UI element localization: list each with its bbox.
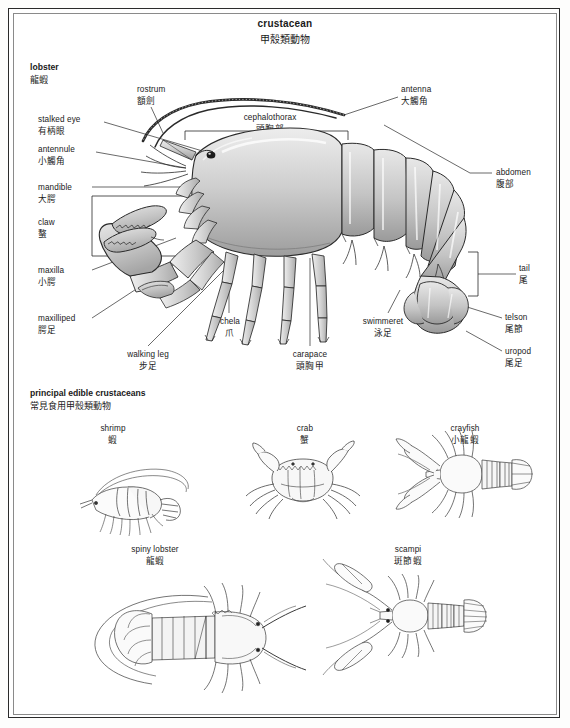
label-swimmeret: swimmeret 泳足 — [352, 317, 414, 339]
section-edible-zh: 常見食用甲殼類動物 — [30, 399, 146, 412]
label-stalked-eye: stalked eye 有柄眼 — [38, 115, 81, 137]
section-heading-lobster: lobster 龍蝦 — [30, 62, 59, 86]
section-heading-edible: principal edible crustaceans 常見食用甲殼類動物 — [30, 388, 146, 412]
caption-scampi: scampi 斑節蝦 — [368, 545, 448, 567]
label-maxilliped: maxilliped 腭足 — [38, 314, 75, 336]
caption-shrimp: shrimp 蝦 — [73, 424, 153, 446]
label-tail: tail 尾 — [519, 264, 530, 286]
section-edible-en: principal edible crustaceans — [30, 388, 146, 398]
page-title-en: crustacean — [0, 18, 570, 29]
label-antennule: antennule 小觸角 — [38, 145, 75, 167]
section-lobster-en: lobster — [30, 62, 59, 72]
label-walking-leg: walking leg 步足 — [110, 350, 186, 372]
page-title-zh: 甲殼類動物 — [0, 31, 570, 46]
label-maxilla: maxilla 小腭 — [38, 266, 64, 288]
caption-crab: crab 蟹 — [265, 424, 345, 446]
label-antenna: antenna 大觸角 — [401, 85, 431, 107]
label-abdomen: abdomen 腹部 — [496, 168, 531, 190]
label-uropod: uropod 尾足 — [505, 347, 531, 369]
label-cephalothorax: cephalothorax 頭胸部 — [220, 113, 320, 135]
label-mandible: mandible 大腭 — [38, 183, 72, 205]
page-title: crustacean 甲殼類動物 — [0, 18, 570, 46]
label-claw: claw 螯 — [38, 218, 55, 240]
label-chela: chela 爪 — [205, 317, 255, 339]
label-carapace: carapace 頭胸甲 — [280, 350, 340, 372]
label-rostrum: rostrum 額劍 — [137, 85, 165, 107]
diagram-page: crustacean 甲殼類動物 lobster 龍蝦 principal ed… — [0, 0, 570, 728]
label-telson: telson 尾節 — [505, 313, 527, 335]
caption-crayfish: crayfish 小龍蝦 — [425, 424, 505, 446]
caption-spiny-lobster: spiny lobster 龍蝦 — [110, 545, 200, 567]
section-lobster-zh: 龍蝦 — [30, 73, 59, 86]
